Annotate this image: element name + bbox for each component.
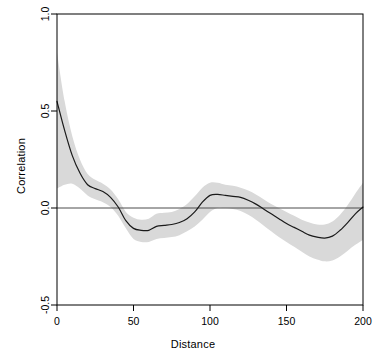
- correlogram-figure: 050100150200 -0.50.00.51.0 Distance Corr…: [0, 0, 386, 360]
- x-axis-title: Distance: [0, 338, 386, 350]
- y-tick-label: 1.0: [39, 7, 51, 22]
- plot-canvas: 050100150200 -0.50.00.51.0: [0, 0, 386, 360]
- x-tick-label: 200: [354, 315, 372, 327]
- y-tick-label: 0.5: [39, 104, 51, 119]
- y-tick-label: 0.0: [39, 201, 51, 216]
- x-tick-label: 100: [201, 315, 219, 327]
- x-tick-label: 50: [128, 315, 140, 327]
- y-tick-label: -0.5: [39, 296, 51, 314]
- x-tick-label: 150: [278, 315, 296, 327]
- x-tick-label: 0: [54, 315, 60, 327]
